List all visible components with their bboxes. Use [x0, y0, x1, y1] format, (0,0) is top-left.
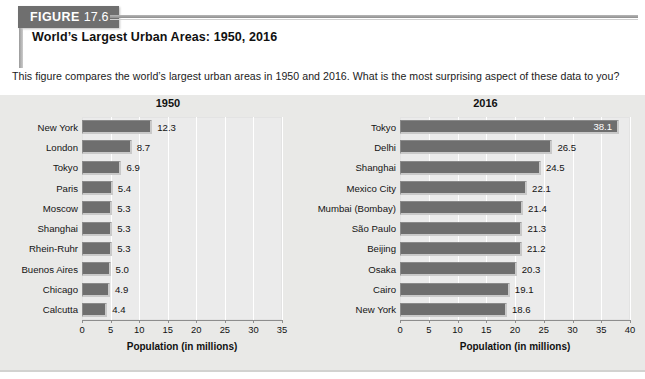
bar-row[interactable]: [322, 239, 645, 259]
chart-2016-title: 2016: [322, 97, 645, 109]
x-tick: [544, 320, 545, 323]
bar-row[interactable]: [0, 117, 322, 137]
x-tick-label: 20: [510, 324, 520, 335]
figure-tab: FIGURE 17.6: [18, 6, 119, 28]
x-tick-label: 10: [134, 324, 144, 335]
x-tick-label: 0: [397, 324, 402, 335]
bar-row[interactable]: [0, 300, 322, 320]
x-tick-label: 10: [452, 324, 462, 335]
x-tick: [225, 320, 226, 323]
bar-row[interactable]: [0, 259, 322, 279]
x-tick-label: 15: [162, 324, 172, 335]
bar-row[interactable]: [322, 300, 645, 320]
figure-banner: FIGURE 17.6: [0, 6, 645, 28]
bar-row[interactable]: [322, 137, 645, 157]
bar-row[interactable]: [0, 178, 322, 198]
chart-2016: 2016 Tokyo38.1Delhi26.5Shanghai24.5Mexic…: [322, 95, 645, 372]
x-tick-label: 30: [567, 324, 577, 335]
x-tick: [601, 320, 602, 323]
x-tick: [253, 320, 254, 323]
x-tick-label: 25: [539, 324, 549, 335]
bar-row[interactable]: [322, 158, 645, 178]
bar-row[interactable]: [322, 279, 645, 299]
x-tick: [515, 320, 516, 323]
bar-row[interactable]: [322, 178, 645, 198]
x-tick-label: 30: [248, 324, 258, 335]
figure-title: World’s Largest Urban Areas: 1950, 2016: [32, 30, 277, 44]
chart-1950-rows: New York12.3London8.7Tokyo6.9Paris5.4Mos…: [0, 117, 322, 320]
x-tick: [168, 320, 169, 323]
banner-rule-secondary: [110, 19, 638, 20]
x-tick: [196, 320, 197, 323]
x-tick: [630, 320, 631, 323]
bar-row[interactable]: [0, 158, 322, 178]
charts-panel: 1950 New York12.3London8.7Tokyo6.9Paris5…: [0, 95, 645, 372]
bar-row[interactable]: [0, 198, 322, 218]
x-tick: [458, 320, 459, 323]
x-tick-label: 35: [596, 324, 606, 335]
x-tick-label: 20: [191, 324, 201, 335]
figure-spine: [19, 28, 23, 68]
figure-number: 17.6: [84, 10, 109, 24]
bar-row[interactable]: [322, 117, 645, 137]
figure-label-word: FIGURE: [30, 10, 80, 24]
x-tick: [111, 320, 112, 323]
bar-row[interactable]: [322, 218, 645, 238]
x-tick: [282, 320, 283, 323]
chart-2016-x-axis-title: Population (in millions): [460, 341, 571, 352]
x-tick: [573, 320, 574, 323]
chart-1950-x-axis-title: Population (in millions): [127, 341, 238, 352]
x-tick: [429, 320, 430, 323]
x-tick: [400, 320, 401, 323]
x-tick-label: 0: [79, 324, 84, 335]
x-tick-label: 40: [625, 324, 635, 335]
x-tick-label: 35: [277, 324, 287, 335]
x-tick: [139, 320, 140, 323]
x-tick-label: 5: [108, 324, 113, 335]
chart-2016-rows: Tokyo38.1Delhi26.5Shanghai24.5Mexico Cit…: [322, 117, 645, 320]
x-tick: [82, 320, 83, 323]
bar-row[interactable]: [322, 259, 645, 279]
chart-1950-x-axis: [82, 320, 282, 321]
x-tick-label: 25: [220, 324, 230, 335]
bar-row[interactable]: [0, 279, 322, 299]
figure-description: This figure compares the world’s largest…: [12, 70, 637, 82]
x-tick: [486, 320, 487, 323]
panel-bottom-edge: [0, 370, 645, 372]
bar-row[interactable]: [0, 137, 322, 157]
x-tick-label: 5: [426, 324, 431, 335]
chart-1950-title: 1950: [0, 97, 322, 109]
chart-1950: 1950 New York12.3London8.7Tokyo6.9Paris5…: [0, 95, 322, 372]
bar-row[interactable]: [0, 239, 322, 259]
banner-rule: [110, 15, 638, 18]
bar-row[interactable]: [0, 218, 322, 238]
bar-row[interactable]: [322, 198, 645, 218]
x-tick-label: 15: [481, 324, 491, 335]
